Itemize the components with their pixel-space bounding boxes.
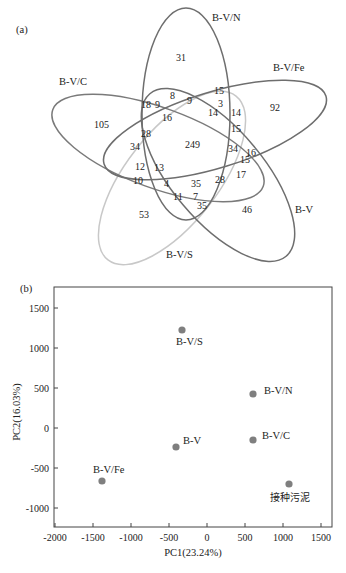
venn-region-values: 31 92 46 53 105 249 15 8 9 3 14 14 18 9 … <box>94 52 280 220</box>
region-value: 3 <box>218 98 223 109</box>
point-label: B-V/Fe <box>93 464 125 475</box>
region-value: 15 <box>240 154 250 165</box>
region-value: 13 <box>154 162 164 173</box>
region-unique-b-v-s: 53 <box>139 209 149 220</box>
region-value: 35 <box>197 200 207 211</box>
region-unique-b-v-n: 31 <box>176 52 186 63</box>
venn-set-b-v-c <box>39 72 277 224</box>
plot-frame <box>54 287 332 527</box>
point-label: B-V/C <box>262 430 290 441</box>
region-value: 18 <box>141 99 151 110</box>
point-labels: B-V/S B-V/N B-V/C B-V B-V/Fe 接种污泥 <box>93 336 310 503</box>
region-value: 28 <box>141 128 151 139</box>
panel-a-label: (a) <box>16 24 28 36</box>
venn-diagram: (a) B-V/N B-V/Fe B-V B-V/S B-V/C 31 92 4… <box>16 8 337 288</box>
region-value: 34 <box>228 143 238 154</box>
region-unique-b-v: 46 <box>242 204 252 215</box>
region-value: 17 <box>236 169 246 180</box>
x-tick-label: -500 <box>160 532 178 543</box>
x-tick-label: 1500 <box>311 532 331 543</box>
y-tick-labels: 1500 1000 500 0 -500 -1000 <box>26 303 49 514</box>
point-b-v-fe <box>98 477 105 484</box>
region-value: 34 <box>130 141 140 152</box>
panel-b-label: (b) <box>20 283 33 295</box>
point-b-v-n <box>249 390 256 397</box>
set-label-b-v: B-V <box>295 204 314 215</box>
region-value: 15 <box>231 123 241 134</box>
y-tick-label: -1000 <box>26 503 49 514</box>
region-value: 9 <box>187 95 192 106</box>
point-label: B-V/N <box>264 385 293 396</box>
region-unique-b-v-fe: 92 <box>270 102 280 113</box>
region-value: 4 <box>164 178 169 189</box>
region-value: 10 <box>133 175 143 186</box>
region-value: 16 <box>162 112 172 123</box>
x-tick-label: 500 <box>238 532 253 543</box>
x-tick-labels: -2000 -1500 -1000 -500 0 500 1000 1500 <box>43 532 331 543</box>
x-tick-label: -2000 <box>43 532 66 543</box>
point-label: 接种污泥 <box>270 491 310 503</box>
point-label: B-V <box>183 435 202 446</box>
x-tick-label: 0 <box>205 532 210 543</box>
y-tick-label: 1000 <box>29 343 49 354</box>
region-value: 14 <box>231 107 241 118</box>
point-b-v-c <box>249 436 256 443</box>
set-label-b-v-n: B-V/N <box>212 12 241 23</box>
region-value: 12 <box>135 161 145 172</box>
point-b-v <box>172 443 179 450</box>
y-tick-label: 0 <box>44 423 49 434</box>
region-value: 11 <box>173 191 183 202</box>
y-axis <box>54 308 58 508</box>
set-label-b-v-c: B-V/C <box>59 76 87 87</box>
figure: (a) B-V/N B-V/Fe B-V B-V/S B-V/C 31 92 4… <box>0 0 346 573</box>
region-value: 8 <box>170 90 175 101</box>
region-value: 15 <box>214 85 224 96</box>
y-tick-label: 500 <box>34 383 49 394</box>
pca-scatter-plot: (b) 1500 1000 500 0 -500 -1000 <box>11 283 332 559</box>
region-value: 28 <box>215 174 225 185</box>
y-axis-label: PC2(16.03%) <box>11 383 23 441</box>
set-label-b-v-s: B-V/S <box>166 249 193 260</box>
point-inoculum-sludge <box>285 480 292 487</box>
y-tick-label: 1500 <box>29 303 49 314</box>
region-value: 9 <box>155 99 160 110</box>
y-tick-label: -500 <box>31 463 49 474</box>
x-tick-label: 1000 <box>273 532 293 543</box>
x-axis <box>55 523 321 527</box>
point-label: B-V/S <box>176 336 203 347</box>
set-label-b-v-fe: B-V/Fe <box>273 62 305 73</box>
point-b-v-s <box>178 326 185 333</box>
region-value: 35 <box>191 178 201 189</box>
data-points <box>98 326 292 487</box>
x-axis-label: PC1(23.24%) <box>164 547 222 559</box>
x-tick-label: -1500 <box>81 532 104 543</box>
region-unique-b-v-c: 105 <box>94 119 109 130</box>
region-value: 14 <box>208 107 218 118</box>
x-tick-label: -1000 <box>119 532 142 543</box>
region-core: 249 <box>185 139 200 150</box>
